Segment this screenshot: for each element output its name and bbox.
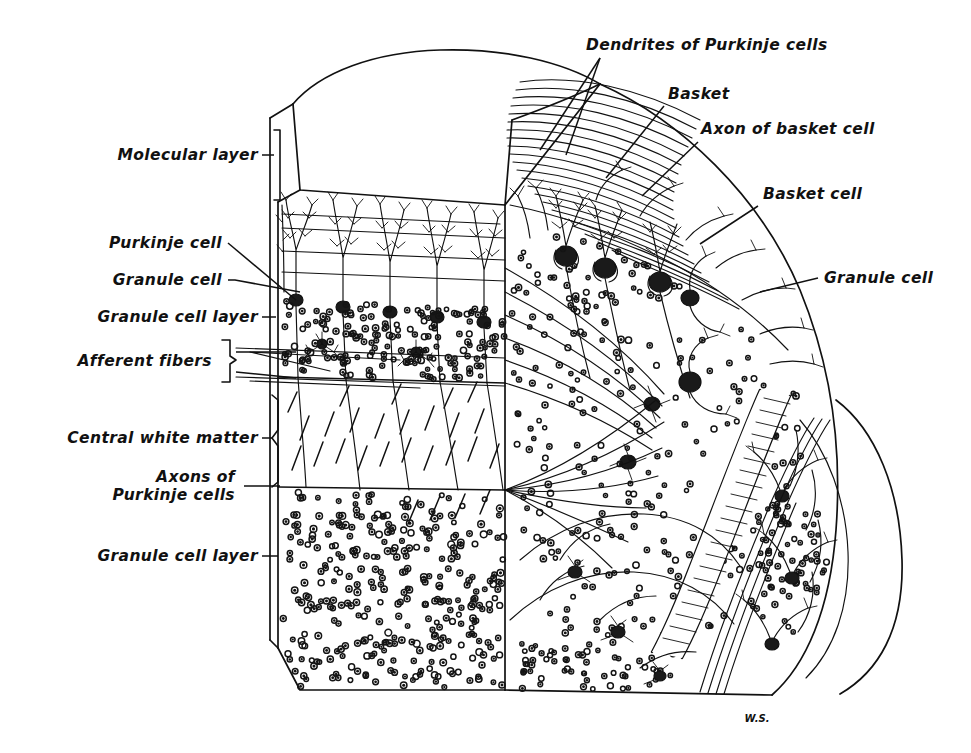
granule-cell-nucleus [765,569,767,571]
granule-cell-nucleus [701,339,704,342]
cerebellum-diagram: Molecular layerPurkinje cellGranule cell… [0,0,971,753]
granule-cell-nucleus [558,364,561,367]
granule-cell-nucleus [604,321,607,324]
granule-cell-nucleus [635,264,637,266]
granule-cell-nucleus [356,514,359,517]
granule-cell [497,652,503,658]
granule-cell-nucleus [359,335,361,337]
granule-cell-nucleus [544,404,547,407]
granule-cell-nucleus [301,369,303,371]
granule-cell-nucleus [447,640,449,642]
granule-cell-nucleus [374,347,376,349]
granule-cell-nucleus [782,461,785,464]
granule-cell-nucleus [406,361,408,363]
granule-cell-nucleus [564,658,566,660]
granule-cell [302,631,307,636]
granule-cell-nucleus [344,644,347,647]
granule-cell-nucleus [325,600,328,603]
granule-cell [376,531,383,538]
granule-cell [824,559,830,565]
granule-cell-nucleus [387,308,390,311]
granule-cell-nucleus [284,362,286,364]
granule-cell-nucleus [317,497,319,499]
granule-cell-nucleus [636,423,639,426]
granule-cell-nucleus [320,600,322,602]
granule-cell [396,328,401,333]
granule-cell-nucleus [487,641,490,644]
granule-cell-nucleus [624,675,626,677]
granule-cell-nucleus [458,572,461,575]
granule-cell-nucleus [356,670,359,673]
granule-cell-nucleus [292,638,294,640]
granule-cell-nucleus [600,484,602,486]
granule-cell-nucleus [740,328,742,330]
granule-cell-nucleus [598,245,601,248]
granule-cell-nucleus [525,292,527,294]
granule-cell-nucleus [585,310,588,313]
granule-cell-nucleus [288,558,291,561]
granule-cell [364,302,370,308]
granule-cell-nucleus [373,303,376,306]
granule-cell-nucleus [763,384,765,386]
granule-cell-nucleus [380,646,382,648]
granule-cell-nucleus [471,576,473,578]
granule-cell-nucleus [566,284,569,287]
granule-cell-nucleus [576,529,579,532]
granule-cell [549,649,553,653]
granule-cell-nucleus [564,618,567,621]
granule-cell-nucleus [539,683,541,685]
granule-cell [305,542,310,547]
granule-cell-nucleus [345,303,348,306]
granule-cell [717,406,721,410]
granule-cell-nucleus [301,496,304,499]
granule-cell [408,326,414,332]
granule-cell-nucleus [813,523,815,525]
granule-cell-nucleus [422,315,424,317]
granule-cell-nucleus [466,584,469,587]
granule-cell-nucleus [799,542,801,544]
granule-cell [654,363,660,369]
granule-cell-nucleus [380,571,382,573]
granule-cell-nucleus [741,555,743,557]
granule-cell-nucleus [403,549,406,552]
granule-cell-nucleus [387,523,390,526]
granule-cell-nucleus [524,670,526,672]
central-white-matter-region [288,377,503,490]
granule-cell-nucleus [619,392,622,395]
granule-cell [583,289,589,295]
granule-cell-nucleus [421,527,423,529]
granule-cell-nucleus [362,640,364,642]
granule-cell [591,687,595,691]
granule-cell-nucleus [380,583,382,585]
granule-cell [534,534,540,540]
granule-cell [795,426,800,431]
granule-cell-nucleus [374,680,377,683]
granule-cell [408,530,414,536]
granule-cell-nucleus [650,657,653,660]
granule-cell-nucleus [431,629,433,631]
granule-cell-nucleus [302,563,305,566]
granule-cell-nucleus [381,365,383,367]
label-basket-cell: Basket cell [763,185,863,203]
granule-cell-nucleus [489,609,492,612]
label-central-white-matter: Central white matter [67,429,259,447]
granule-cell-nucleus [801,562,804,565]
granule-cell [553,556,557,560]
molecular-layer-region [282,214,505,281]
granule-cell-nucleus [325,649,328,652]
granule-cell-nucleus [458,333,461,336]
granule-cell-nucleus [632,386,634,388]
granule-cell-nucleus [792,631,794,633]
granule-cell-nucleus [335,673,337,675]
granule-cell-nucleus [349,535,352,538]
granule-cell-nucleus [289,536,292,539]
granule-cell-nucleus [548,445,551,448]
label-molecular-layer: Molecular layer [118,146,259,164]
granule-cell [514,441,520,447]
granule-cell-nucleus [688,553,691,556]
granule-cell-nucleus [388,642,391,645]
label-axons-of-purkinje-cells: Axons ofPurkinje cells [112,468,236,504]
granule-cell-nucleus [474,308,477,311]
granule-cell-nucleus [381,577,384,580]
granule-cell-nucleus [404,505,407,508]
